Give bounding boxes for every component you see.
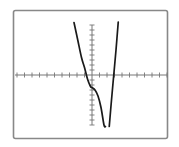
graph-plot <box>0 0 179 147</box>
